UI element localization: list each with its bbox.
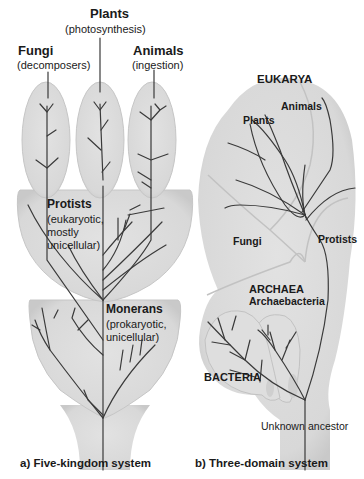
fungi-group-label: Fungi xyxy=(233,235,262,247)
panel-a-caption: a) Five-kingdom system xyxy=(20,457,151,470)
protists-shape xyxy=(17,190,192,302)
plants-shape xyxy=(76,82,124,198)
root-label-ancestor: ancestor xyxy=(308,420,348,432)
eukarya-domain-label: EUKARYA xyxy=(257,73,312,86)
monerans-kingdom-label: Monerans xyxy=(106,303,163,317)
archaea-domain-label: ARCHAEA xyxy=(249,283,304,296)
animals-group-label: Animals xyxy=(281,100,322,112)
archaebacteria-label: Archaebacteria xyxy=(249,295,325,307)
protists-note-line-3: unicellular) xyxy=(47,239,100,252)
animals-kingdom-label: Animals xyxy=(133,44,184,59)
protists-note-line-2: mostly xyxy=(47,226,79,239)
five-kingdom-tree xyxy=(17,38,192,470)
panel-b-caption: b) Three-domain system xyxy=(195,457,328,470)
protists-group-label: Protists xyxy=(318,233,357,245)
plants-kingdom-label: Plants xyxy=(90,7,129,22)
protists-note-line-1: (eukaryotic, xyxy=(47,213,104,226)
animals-shape xyxy=(128,82,176,198)
fungi-shape xyxy=(22,82,70,198)
three-domain-tree xyxy=(198,78,356,470)
animals-kingdom-note: (ingestion) xyxy=(132,59,183,72)
plants-kingdom-note: (photosynthesis) xyxy=(65,23,146,36)
monerans-note-line-1: (prokaryotic, xyxy=(106,318,167,331)
protists-kingdom-label: Protists xyxy=(47,198,92,212)
bacteria-domain-label: BACTERIA xyxy=(204,371,261,384)
fungi-kingdom-note: (decomposers) xyxy=(17,59,90,72)
root-label-unknown: Unknown xyxy=(261,420,305,432)
monerans-note-line-2: unicellular) xyxy=(106,331,159,344)
plants-group-label: Plants xyxy=(243,114,275,126)
fungi-kingdom-label: Fungi xyxy=(18,44,53,59)
